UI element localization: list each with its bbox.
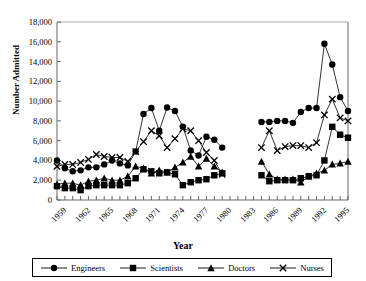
legend-marker-square-icon: [119, 262, 147, 274]
series-engineers: [54, 41, 351, 175]
chart-figure: Number Admitted Year 02,0004,0006,0008,0…: [0, 0, 366, 281]
y-axis-tick-label: 18,000: [4, 17, 52, 27]
legend-item-scientists[interactable]: Scientists: [119, 262, 183, 274]
legend-label: Doctors: [228, 263, 255, 273]
y-axis-tick-label: 0: [4, 195, 52, 205]
y-axis-tick-label: 16,000: [4, 37, 52, 47]
chart-legend: EngineersScientistsDoctorsNurses: [32, 258, 332, 277]
y-axis-tick-label: 6,000: [4, 136, 52, 146]
legend-label: Scientists: [150, 263, 183, 273]
legend-marker-cross-icon: [269, 262, 297, 274]
legend-marker-triangle-icon: [197, 262, 225, 274]
chart-plot-area: [0, 0, 366, 281]
y-axis-tick-label: 4,000: [4, 155, 52, 165]
legend-marker-circle-icon: [40, 262, 68, 274]
legend-item-engineers[interactable]: Engineers: [40, 262, 105, 274]
y-axis-tick-label: 14,000: [4, 57, 52, 67]
series-doctors: [53, 153, 351, 189]
legend-item-doctors[interactable]: Doctors: [197, 262, 255, 274]
y-axis-tick-label: 8,000: [4, 116, 52, 126]
y-axis-tick-label: 2,000: [4, 175, 52, 185]
legend-label: Nurses: [300, 263, 324, 273]
y-axis-tick-label: 10,000: [4, 96, 52, 106]
legend-label: Engineers: [71, 263, 105, 273]
x-axis-title: Year: [0, 240, 366, 251]
y-axis-tick-label: 12,000: [4, 76, 52, 86]
legend-item-nurses[interactable]: Nurses: [269, 262, 324, 274]
